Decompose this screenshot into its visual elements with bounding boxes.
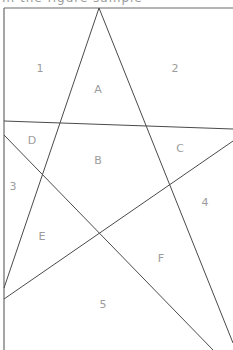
region-label-d: D — [28, 134, 36, 147]
region-label-f: F — [158, 252, 164, 265]
region-label-2: 2 — [172, 62, 179, 75]
region-label-5: 5 — [100, 298, 107, 311]
region-label-4: 4 — [202, 196, 209, 209]
star-diagram: 1 2 A D B C 3 4 E F 5 — [0, 0, 233, 350]
region-label-3: 3 — [10, 180, 17, 193]
horizontal-line — [4, 121, 233, 129]
right-diagonal-line — [4, 141, 233, 299]
region-label-b: B — [94, 154, 102, 167]
region-label-1: 1 — [37, 62, 44, 75]
apex-left-line — [4, 8, 99, 288]
region-label-a: A — [94, 83, 102, 96]
region-label-e: E — [39, 230, 46, 243]
apex-right-line — [99, 8, 233, 343]
left-diagonal-line — [4, 135, 213, 350]
region-label-c: C — [176, 142, 184, 155]
